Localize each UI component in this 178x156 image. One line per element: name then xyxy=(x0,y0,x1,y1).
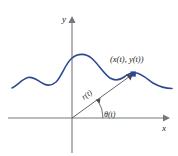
point-coordinates-label: (x(t), y(t)) xyxy=(110,54,144,64)
position-curve xyxy=(12,54,172,88)
angle-label: θ(t) xyxy=(104,110,116,119)
polar-coordinate-diagram: y x (x(t), y(t)) r(t) θ(t) xyxy=(0,0,178,156)
y-axis xyxy=(68,16,75,153)
moving-point-marker xyxy=(131,71,136,76)
angle-arc xyxy=(96,98,103,118)
figure-container: y x (x(t), y(t)) r(t) θ(t) xyxy=(0,0,178,156)
x-axis-label: x xyxy=(161,123,166,133)
radius-label: r(t) xyxy=(80,88,94,102)
angle-arc-path xyxy=(98,101,103,119)
y-axis-label: y xyxy=(61,14,66,24)
radius-vector-line xyxy=(72,77,130,119)
x-axis xyxy=(8,114,170,121)
y-axis-arrowhead xyxy=(68,16,75,23)
x-axis-arrowhead xyxy=(163,114,170,121)
